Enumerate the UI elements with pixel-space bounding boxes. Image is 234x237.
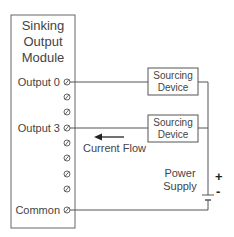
negative-terminal-sign: - bbox=[216, 184, 220, 199]
battery-icon bbox=[202, 195, 214, 200]
module-title-line3: Module bbox=[22, 50, 65, 65]
module-title-line1: Sinking bbox=[22, 18, 65, 33]
terminal-screw-icon bbox=[64, 186, 70, 192]
sourcing-device-2-line1: Sourcing bbox=[153, 117, 192, 128]
sourcing-device-1-line1: Sourcing bbox=[153, 70, 192, 81]
terminal-label-output-0: Output 0 bbox=[18, 76, 60, 88]
terminal-screws bbox=[64, 79, 70, 213]
module-title-line2: Output bbox=[23, 34, 62, 49]
terminal-screw-icon bbox=[64, 207, 70, 213]
sinking-output-wiring-diagram: Sinking Output Module Output 0 Output 3 … bbox=[0, 0, 234, 237]
terminal-screw-icon bbox=[64, 109, 70, 115]
current-flow-label: Current Flow bbox=[83, 142, 146, 154]
terminal-label-output-3: Output 3 bbox=[18, 122, 60, 134]
terminal-screw-icon bbox=[64, 79, 70, 85]
terminal-screw-icon bbox=[64, 125, 70, 131]
terminal-screw-icon bbox=[64, 94, 70, 100]
terminal-screw-icon bbox=[64, 140, 70, 146]
positive-terminal-sign: + bbox=[215, 169, 223, 184]
sourcing-device-1-line2: Device bbox=[158, 82, 189, 93]
terminal-screw-icon bbox=[64, 155, 70, 161]
terminal-label-common: Common bbox=[15, 204, 60, 216]
power-supply-label-line2: Supply bbox=[163, 180, 197, 192]
terminal-screw-icon bbox=[64, 171, 70, 177]
sourcing-device-2-line2: Device bbox=[158, 129, 189, 140]
power-supply-label-line1: Power bbox=[164, 167, 196, 179]
current-flow-arrow-icon bbox=[94, 134, 124, 141]
